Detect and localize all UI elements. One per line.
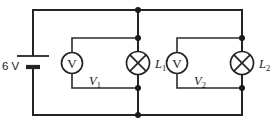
lamp-2-label: L2	[258, 57, 270, 73]
battery-voltage-label: 6 V	[2, 60, 20, 72]
voltmeter-2-label: V2	[194, 74, 206, 90]
voltmeter-2-symbol: V	[167, 53, 188, 74]
wire-voltmeter1-bottom	[72, 73, 138, 88]
circuit-schematic-canvas: 6 V L1 L2 V V1	[0, 0, 275, 125]
voltmeter-1-inner-text: V	[67, 56, 77, 71]
battery-symbol	[17, 56, 49, 67]
voltmeter-1-label: V1	[89, 74, 101, 90]
junction-dot-voltmeter2-top	[239, 35, 245, 41]
lamp-2-letter: L	[258, 57, 266, 71]
voltmeter-2-subscript: 2	[202, 80, 206, 90]
voltmeter-1-subscript: 1	[97, 80, 101, 90]
lamp-1-label: L1	[154, 57, 166, 73]
lamp-1-letter: L	[154, 57, 162, 71]
junction-dot-bottom-middle	[135, 112, 141, 118]
lamp-2-symbol	[231, 52, 254, 75]
lamp-1-subscript: 1	[162, 63, 166, 73]
junction-dot-voltmeter2-bottom	[239, 85, 245, 91]
circuit-diagram: 6 V L1 L2 V V1	[0, 0, 275, 125]
lamp-1-symbol	[127, 52, 150, 75]
wire-voltmeter1-top	[72, 38, 138, 53]
junction-dot-voltmeter1-bottom	[135, 85, 141, 91]
junction-dot-top-middle	[135, 7, 141, 13]
junction-dot-voltmeter1-top	[135, 35, 141, 41]
wire-voltmeter2-bottom	[177, 73, 242, 88]
lamp-2-subscript: 2	[266, 63, 270, 73]
voltmeter-1-symbol: V	[62, 53, 83, 74]
voltmeter-2-inner-text: V	[172, 56, 182, 71]
wire-voltmeter2-top	[177, 38, 242, 53]
